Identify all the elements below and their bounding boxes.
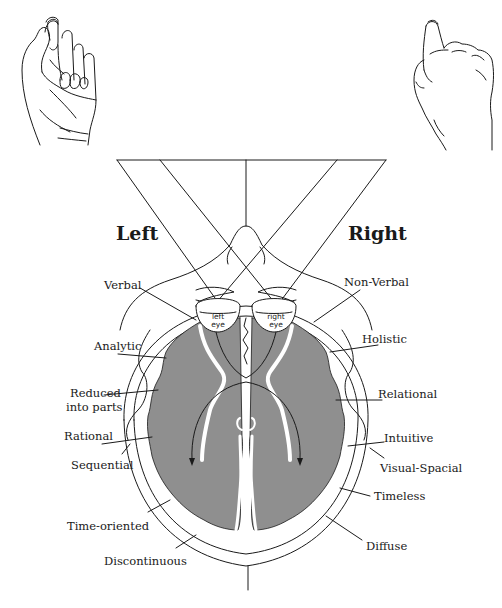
brain-hemisphere-diagram: Left Right left eye right eye Verbal Ana…: [0, 0, 502, 608]
right-side-label: Right: [348, 222, 407, 244]
trait-intuitive: Intuitive: [384, 432, 433, 445]
left-hand-icon: [22, 17, 96, 145]
trait-into-parts: into parts: [66, 401, 123, 414]
left-side-label: Left: [116, 222, 158, 244]
trait-rational: Rational: [64, 430, 113, 443]
trait-relational: Relational: [378, 388, 437, 401]
trait-visual-spacial: Visual-Spacial: [380, 462, 462, 475]
trait-discontinuous: Discontinuous: [104, 555, 187, 568]
trait-sequential: Sequential: [71, 459, 134, 472]
right-eye-label: right eye: [263, 313, 289, 328]
left-eye-label: left eye: [205, 313, 231, 328]
trait-reduced: Reduced: [70, 387, 121, 400]
trait-non-verbal: Non-Verbal: [344, 276, 409, 289]
diagram-drawing: [0, 0, 502, 608]
right-hand-icon: [414, 20, 494, 150]
trait-time-oriented: Time-oriented: [67, 520, 149, 533]
trait-holistic: Holistic: [362, 333, 407, 346]
right-ear-outline: [342, 330, 366, 440]
trait-diffuse: Diffuse: [366, 540, 407, 553]
trait-analytic: Analytic: [94, 340, 141, 353]
trait-verbal: Verbal: [104, 279, 141, 292]
trait-timeless: Timeless: [374, 490, 425, 503]
